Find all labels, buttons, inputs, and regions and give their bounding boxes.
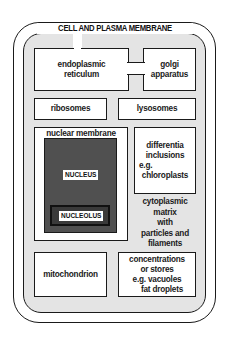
golgi-apparatus-box: golgi apparatus bbox=[143, 48, 196, 91]
differentia-line4: chloroplasts bbox=[142, 171, 188, 181]
concentrations-line2: or stores bbox=[140, 265, 173, 275]
concentrations-line1: concentrations bbox=[129, 255, 185, 265]
differentia-line2: inclusions bbox=[146, 151, 185, 161]
differentia-line1: differentia bbox=[146, 141, 183, 151]
lysosomes-label: lysosomes bbox=[137, 104, 178, 114]
er-label-line1: endoplasmic bbox=[58, 60, 106, 70]
cytoplasmic-matrix-label: cytoplasmic matrix with particles and fi… bbox=[134, 197, 196, 250]
ribosomes-box: ribosomes bbox=[34, 98, 107, 120]
cytoplasm-line5: filaments bbox=[134, 239, 196, 250]
differentia-line3: e.g. bbox=[139, 161, 152, 171]
er-channel-opening bbox=[74, 47, 81, 50]
mitochondrion-label: mitochondrion bbox=[43, 270, 98, 280]
lysosomes-box: lysosomes bbox=[118, 98, 196, 120]
golgi-label-line2: apparatus bbox=[151, 70, 188, 80]
cytoplasm-line3: with bbox=[134, 218, 196, 229]
cytoplasm-line4: particles and bbox=[134, 229, 196, 240]
er-golgi-connector bbox=[127, 62, 145, 75]
ribosomes-label: ribosomes bbox=[51, 104, 91, 114]
mitochondrion-box: mitochondrion bbox=[34, 252, 107, 297]
diagram-title: CELL AND PLASMA MEMBRANE bbox=[37, 23, 193, 34]
concentrations-line4: fat droplets bbox=[141, 285, 183, 295]
concentrations-line3: e.g. vacuoles bbox=[133, 275, 182, 285]
nucleus-label: NUCLEUS bbox=[63, 170, 98, 180]
nucleolus-label: NUCLEOLUS bbox=[59, 211, 103, 221]
endoplasmic-reticulum-box: endoplasmic reticulum bbox=[34, 48, 129, 91]
golgi-label-line1: golgi bbox=[160, 60, 179, 70]
concentrations-box: concentrations or stores e.g. vacuoles f… bbox=[118, 252, 196, 297]
er-label-line2: reticulum bbox=[64, 70, 99, 80]
cytoplasm-line2: matrix bbox=[134, 208, 196, 219]
cytoplasm-line1: cytoplasmic bbox=[134, 197, 196, 208]
differentia-inclusions-box: differentia inclusions e.g. chloroplasts bbox=[134, 127, 196, 194]
